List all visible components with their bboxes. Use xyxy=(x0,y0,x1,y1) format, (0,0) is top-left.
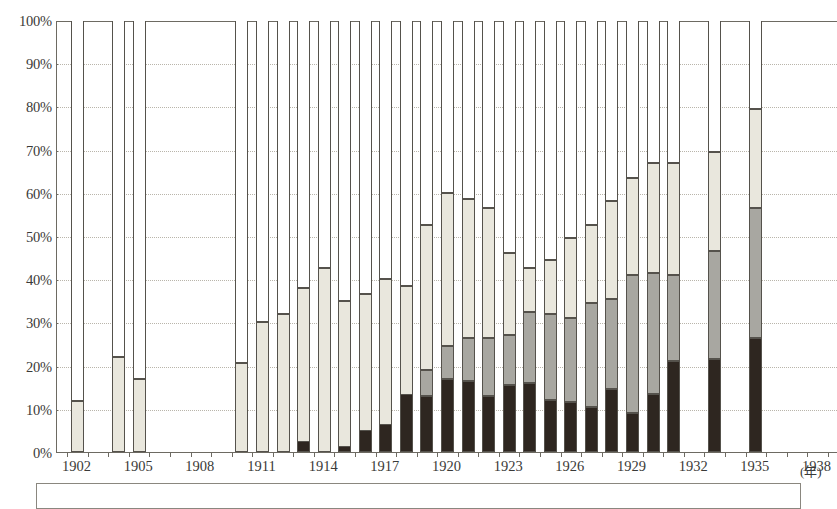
bar-1928-segment-dark xyxy=(605,389,618,452)
bar-1913-segment-light xyxy=(297,288,310,452)
bar-1918 xyxy=(400,21,413,452)
y-tick-mark-100 xyxy=(57,21,58,22)
bar-1913-segment-remainder xyxy=(297,21,310,288)
bar-1935-segment-light xyxy=(749,109,762,208)
x-tick-label-1932: 1932 xyxy=(679,458,708,475)
y-tick-label-100: 100% xyxy=(4,13,52,30)
bar-1931-segment-remainder xyxy=(667,21,680,163)
bar-1921-segment-remainder xyxy=(462,21,475,199)
bar-1925-segment-grey xyxy=(544,314,557,400)
bar-1904 xyxy=(112,21,125,452)
x-tick-label-1926: 1926 xyxy=(555,458,584,475)
x-tick-mark-1932 xyxy=(684,452,685,457)
bar-1925-segment-remainder xyxy=(544,21,557,260)
plot-area xyxy=(57,21,837,452)
bar-1927-segment-dark xyxy=(585,407,598,452)
bar-1902-segment-remainder xyxy=(71,21,84,401)
bar-1926 xyxy=(564,21,577,452)
x-tick-mark-1914 xyxy=(314,452,315,457)
x-tick-label-1911: 1911 xyxy=(247,458,275,475)
x-tick-mark-1921 xyxy=(458,452,459,457)
bar-1921-segment-dark xyxy=(462,381,475,452)
x-tick-label-1920: 1920 xyxy=(432,458,461,475)
y-tick-mark-50 xyxy=(57,237,58,238)
bar-1919-segment-dark xyxy=(420,396,433,452)
bar-1917-segment-dark xyxy=(379,424,392,452)
x-tick-mark-1924 xyxy=(519,452,520,457)
bar-1927-segment-remainder xyxy=(585,21,598,225)
x-tick-mark-1904 xyxy=(108,452,109,457)
bar-1921-segment-light xyxy=(462,199,475,337)
bar-1929-segment-light xyxy=(626,178,639,275)
x-tick-mark-1911 xyxy=(252,452,253,457)
bar-1930-segment-remainder xyxy=(647,21,660,163)
bar-1933-segment-grey xyxy=(708,251,721,359)
x-tick-mark-1917 xyxy=(376,452,377,457)
x-tick-mark-1916 xyxy=(355,452,356,457)
x-tick-mark-1907 xyxy=(170,452,171,457)
bar-1919-segment-grey xyxy=(420,370,433,396)
bar-1920 xyxy=(441,21,454,452)
bar-1917-segment-light xyxy=(379,279,392,432)
bar-1929-segment-dark xyxy=(626,413,639,452)
bar-1918-segment-dark xyxy=(400,394,413,452)
bar-1922-segment-grey xyxy=(482,338,495,396)
bar-1921-segment-grey xyxy=(462,338,475,381)
bar-1905 xyxy=(133,21,146,452)
bar-1904-segment-light xyxy=(112,357,125,452)
bar-1928-segment-light xyxy=(605,201,618,298)
x-tick-label-1923: 1923 xyxy=(494,458,523,475)
bar-1922-segment-remainder xyxy=(482,21,495,208)
bar-1924-segment-remainder xyxy=(523,21,536,268)
bar-1935-segment-grey xyxy=(749,208,762,338)
y-tick-mark-30 xyxy=(57,323,58,324)
bar-1916-segment-remainder xyxy=(359,21,372,294)
x-tick-mark-1915 xyxy=(334,452,335,457)
bar-1915-segment-dark xyxy=(338,446,351,452)
x-tick-label-1929: 1929 xyxy=(617,458,646,475)
bar-1928-segment-remainder xyxy=(605,21,618,201)
y-tick-mark-90 xyxy=(57,64,58,65)
y-tick-mark-20 xyxy=(57,367,58,368)
bar-1933-segment-light xyxy=(708,152,721,251)
x-tick-mark-1934 xyxy=(725,452,726,457)
x-tick-mark-1939 xyxy=(828,452,829,457)
bar-1914 xyxy=(318,21,331,452)
y-tick-label-0: 0% xyxy=(4,445,52,462)
bar-1925-segment-dark xyxy=(544,400,557,452)
bar-1935-segment-dark xyxy=(749,338,762,452)
y-tick-label-20: 20% xyxy=(4,358,52,375)
bar-1916-segment-light xyxy=(359,294,372,452)
x-tick-label-1902: 1902 xyxy=(62,458,91,475)
x-tick-label-1935: 1935 xyxy=(740,458,769,475)
bar-1920-segment-light xyxy=(441,193,454,346)
x-tick-mark-1918 xyxy=(396,452,397,457)
bar-1931-segment-dark xyxy=(667,361,680,452)
bar-1933 xyxy=(708,21,721,452)
x-tick-label-1917: 1917 xyxy=(370,458,399,475)
x-axis-labels: 1902190519081911191419171920192319261929… xyxy=(56,458,837,480)
bar-1924-segment-grey xyxy=(523,312,536,383)
bar-1912-segment-light xyxy=(277,314,290,452)
bar-1913 xyxy=(297,21,310,452)
bar-1914-segment-remainder xyxy=(318,21,331,268)
bar-1935 xyxy=(749,21,762,452)
bar-1924 xyxy=(523,21,536,452)
bar-1910-segment-remainder xyxy=(235,21,248,363)
x-tick-mark-1906 xyxy=(149,452,150,457)
x-tick-label-1908: 1908 xyxy=(185,458,214,475)
bar-1927-segment-light xyxy=(585,225,598,303)
bar-1926-segment-remainder xyxy=(564,21,577,238)
bar-1923-segment-light xyxy=(503,253,516,335)
y-tick-mark-70 xyxy=(57,151,58,152)
bar-1930 xyxy=(647,21,660,452)
bar-1931-segment-grey xyxy=(667,275,680,361)
bar-1915-segment-remainder xyxy=(338,21,351,301)
bar-1922 xyxy=(482,21,495,452)
bar-1917 xyxy=(379,21,392,452)
x-tick-mark-1919 xyxy=(417,452,418,457)
bar-1920-segment-dark xyxy=(441,379,454,452)
bar-1929-segment-remainder xyxy=(626,21,639,178)
bar-1935-segment-remainder xyxy=(749,21,762,109)
